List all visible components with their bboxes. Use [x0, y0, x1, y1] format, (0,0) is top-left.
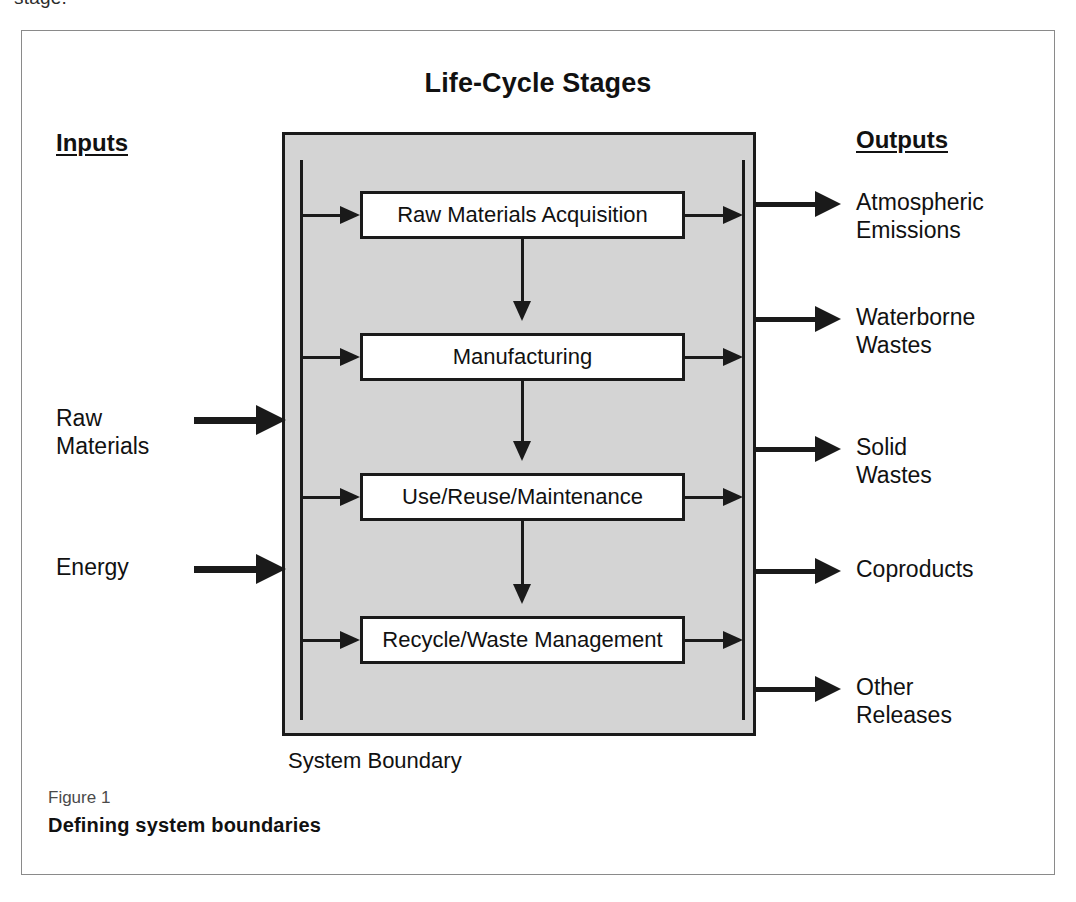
output-arrow-head-other-releases: [815, 676, 841, 702]
stage-box-recycle-waste-management[interactable]: Recycle/Waste Management: [360, 616, 685, 664]
inputs-heading: Inputs: [56, 129, 128, 157]
input-arrow-head-energy: [256, 554, 286, 584]
stage-label: Use/Reuse/Maintenance: [402, 484, 643, 510]
output-label-solid-wastes: Solid Wastes: [856, 433, 932, 489]
input-arrow-head-raw-materials: [256, 405, 286, 435]
input-arrow-line-raw-materials: [194, 417, 264, 424]
internal-output-arrow-3: [723, 488, 743, 506]
internal-input-arrow-4: [340, 631, 360, 649]
stage-label: Manufacturing: [453, 344, 592, 370]
input-label-line1: Energy: [56, 553, 129, 581]
output-label-line1: Waterborne: [856, 303, 975, 331]
internal-output-line-1: [685, 214, 727, 217]
input-label-line1: Raw: [56, 404, 149, 432]
internal-output-arrow-2: [723, 348, 743, 366]
flow-connector-3-line: [521, 521, 524, 586]
output-label-line1: Coproducts: [856, 555, 974, 583]
output-arrow-line-other-releases: [756, 687, 822, 692]
output-label-atmospheric-emissions: Atmospheric Emissions: [856, 188, 984, 244]
flow-connector-1-line: [521, 239, 524, 303]
output-label-other-releases: Other Releases: [856, 673, 952, 729]
stage-label: Recycle/Waste Management: [382, 627, 662, 653]
output-arrow-line-atmospheric-emissions: [756, 202, 822, 207]
output-label-line2: Wastes: [856, 331, 975, 359]
internal-output-line-3: [685, 496, 727, 499]
internal-input-line-3: [300, 496, 343, 499]
internal-input-line-2: [300, 356, 343, 359]
internal-input-line-1: [300, 214, 343, 217]
output-label-coproducts: Coproducts: [856, 555, 974, 583]
system-boundary-label: System Boundary: [288, 748, 462, 774]
figure-caption: Figure 1 Defining system boundaries: [48, 788, 321, 837]
internal-input-bus-line: [300, 160, 303, 720]
caption-kicker: Figure 1: [48, 788, 321, 808]
output-arrow-head-coproducts: [815, 558, 841, 584]
output-label-line1: Other: [856, 673, 952, 701]
page-title: Life-Cycle Stages: [21, 68, 1055, 99]
stage-label: Raw Materials Acquisition: [397, 202, 648, 228]
internal-input-arrow-3: [340, 488, 360, 506]
output-label-line2: Emissions: [856, 216, 984, 244]
flow-connector-2-arrowhead: [513, 441, 531, 461]
flow-connector-1-arrowhead: [513, 301, 531, 321]
output-label-line2: Releases: [856, 701, 952, 729]
internal-output-arrow-4: [723, 631, 743, 649]
stage-box-raw-materials-acquisition[interactable]: Raw Materials Acquisition: [360, 191, 685, 239]
output-arrow-line-solid-wastes: [756, 447, 822, 452]
flow-connector-3-arrowhead: [513, 584, 531, 604]
internal-output-line-4: [685, 639, 727, 642]
internal-input-arrow-1: [340, 206, 360, 224]
internal-output-line-2: [685, 356, 727, 359]
internal-input-arrow-2: [340, 348, 360, 366]
flow-connector-2-line: [521, 381, 524, 443]
outputs-heading: Outputs: [856, 126, 948, 154]
input-label-line2: Materials: [56, 432, 149, 460]
output-arrow-line-coproducts: [756, 569, 822, 574]
stage-box-manufacturing[interactable]: Manufacturing: [360, 333, 685, 381]
input-arrow-line-energy: [194, 566, 264, 573]
input-label-energy: Energy: [56, 553, 129, 581]
caption-title: Defining system boundaries: [48, 814, 321, 837]
output-arrow-line-waterborne-wastes: [756, 317, 822, 322]
internal-output-bus-line: [742, 160, 745, 720]
output-label-waterborne-wastes: Waterborne Wastes: [856, 303, 975, 359]
stage-box-use-reuse-maintenance[interactable]: Use/Reuse/Maintenance: [360, 473, 685, 521]
output-arrow-head-atmospheric-emissions: [815, 191, 841, 217]
output-label-line1: Atmospheric: [856, 188, 984, 216]
internal-input-line-4: [300, 639, 343, 642]
output-label-line2: Wastes: [856, 461, 932, 489]
internal-output-arrow-1: [723, 206, 743, 224]
cropped-text-fragment: stage.: [14, 0, 67, 9]
output-arrow-head-waterborne-wastes: [815, 306, 841, 332]
output-arrow-head-solid-wastes: [815, 436, 841, 462]
input-label-raw-materials: Raw Materials: [56, 404, 149, 460]
output-label-line1: Solid: [856, 433, 932, 461]
